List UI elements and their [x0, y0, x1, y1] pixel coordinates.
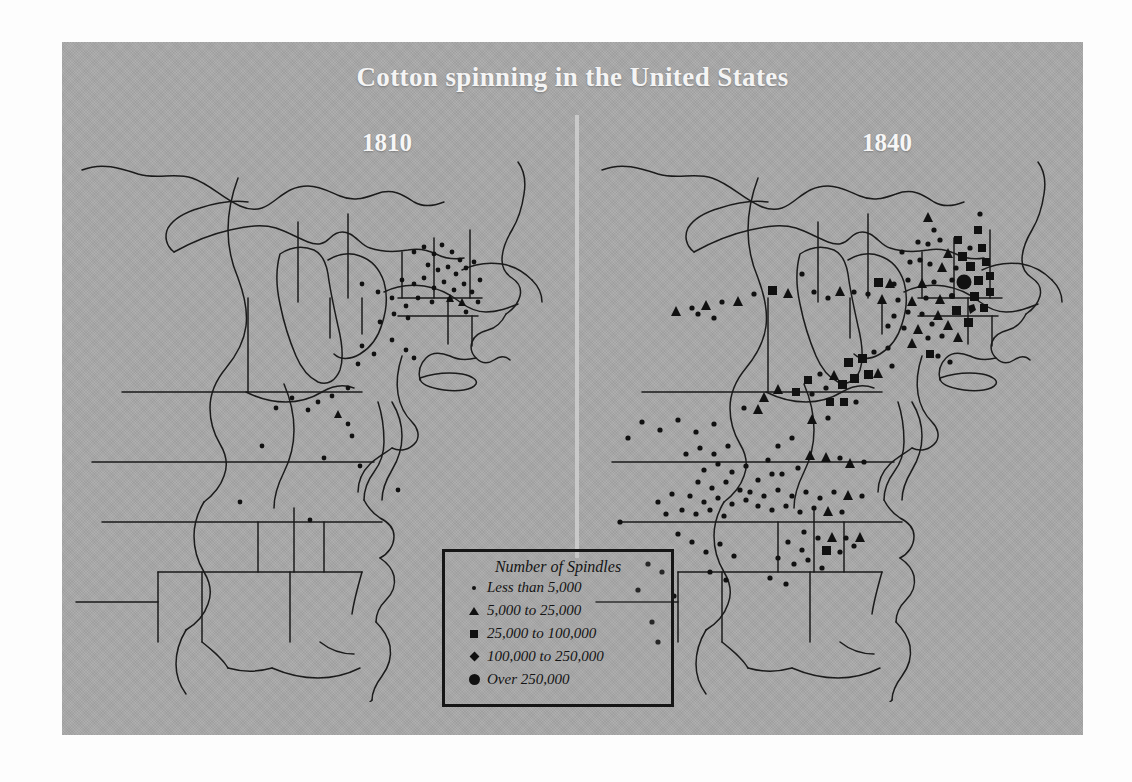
- diamond-symbol-icon: [461, 653, 487, 660]
- legend-item-label: Over 250,000: [487, 671, 570, 688]
- map-plate: Cotton spinning in the United States 181…: [62, 42, 1083, 735]
- legend-item-label: 5,000 to 25,000: [487, 602, 581, 619]
- panel-divider: [575, 115, 579, 558]
- legend-item-25000-to-100000: 25,000 to 100,000: [445, 622, 671, 645]
- page-title: Cotton spinning in the United States: [62, 62, 1083, 93]
- dot-symbol-icon: [461, 586, 487, 590]
- legend-item-less-than-5000: Less than 5,000: [445, 576, 671, 599]
- legend-item-label: 25,000 to 100,000: [487, 625, 596, 642]
- circle-symbol-icon: [461, 674, 487, 685]
- legend-item-100000-to-250000: 100,000 to 250,000: [445, 645, 671, 668]
- legend-box: Number of Spindles Less than 5,000 5,000…: [442, 549, 674, 707]
- legend-item-label: 100,000 to 250,000: [487, 648, 604, 665]
- legend-item-over-250000: Over 250,000: [445, 668, 671, 691]
- square-symbol-icon: [461, 630, 487, 638]
- legend-item-label: Less than 5,000: [487, 579, 582, 596]
- legend-title: Number of Spindles: [445, 558, 671, 576]
- triangle-symbol-icon: [461, 607, 487, 615]
- legend-item-5000-to-25000: 5,000 to 25,000: [445, 599, 671, 622]
- page-root: Cotton spinning in the United States 181…: [0, 0, 1132, 782]
